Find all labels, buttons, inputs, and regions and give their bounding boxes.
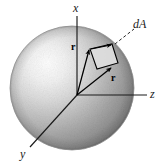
position-vector-lower-label: r (111, 73, 115, 83)
dA-leader-line (115, 29, 134, 44)
y-axis-label: y (20, 148, 25, 160)
z-axis-label: z (150, 88, 155, 100)
position-vector-upper-label: r (71, 42, 75, 52)
sphere-surface-element-figure: x y z r r dA (0, 0, 165, 168)
x-axis-label: x (73, 2, 78, 14)
differential-area-label: dA (133, 18, 146, 30)
